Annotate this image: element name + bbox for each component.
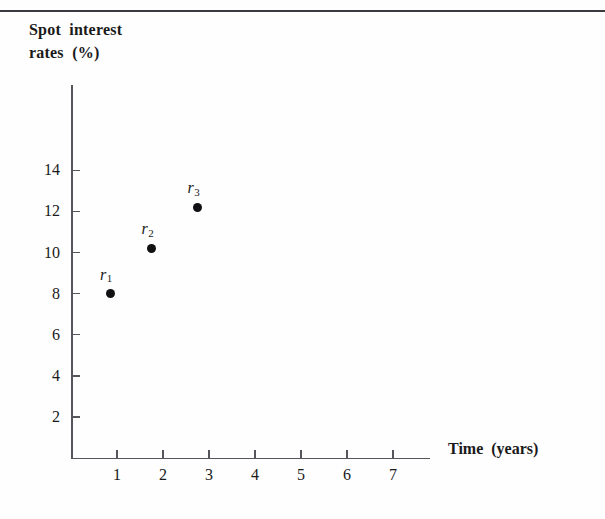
y-tick-label: 2: [34, 409, 60, 425]
y-tick-label-text: 10: [34, 245, 60, 261]
y-tick-label-text: 6: [34, 327, 60, 343]
y-tick-mark: [72, 170, 80, 172]
x-tick-label: 3: [197, 466, 221, 484]
y-tick-label: 14: [34, 162, 60, 178]
y-tick-label: 6: [34, 327, 60, 343]
x-axis-title: Time (years): [448, 440, 538, 458]
y-tick-mark: [72, 334, 80, 336]
y-tick-label-text: 8: [34, 286, 60, 302]
data-point-label: r2: [142, 221, 154, 241]
y-tick-mark: [72, 252, 80, 254]
scatter-plot: 2468101214 1234567 r1r2r3 Time (years): [0, 0, 605, 519]
y-tick-label-text: 2: [34, 409, 60, 425]
x-axis-line: [71, 458, 430, 460]
y-tick-mark: [72, 416, 80, 418]
x-tick-mark: [254, 450, 256, 458]
x-tick-mark: [208, 450, 210, 458]
x-tick-label: 6: [335, 466, 359, 484]
x-tick-label: 4: [243, 466, 267, 484]
y-tick-label-text: 4: [34, 368, 60, 384]
y-tick-mark: [72, 293, 80, 295]
y-tick-mark: [72, 211, 80, 213]
figure-container: Spot interest rates (%) 2468101214 12345…: [0, 0, 605, 519]
y-tick-label-text: 14: [34, 162, 60, 178]
x-tick-mark: [346, 450, 348, 458]
data-point-marker: [193, 203, 202, 212]
y-tick-label: 4: [34, 368, 60, 384]
data-point-label: r1: [100, 267, 112, 287]
x-tick-label: 1: [105, 466, 129, 484]
y-tick-label: 8: [34, 286, 60, 302]
data-point-marker: [147, 244, 156, 253]
y-axis-line: [71, 85, 73, 459]
x-tick-mark: [162, 450, 164, 458]
x-tick-label: 2: [151, 466, 175, 484]
x-tick-label: 7: [381, 466, 405, 484]
x-tick-mark: [392, 450, 394, 458]
x-tick-mark: [300, 450, 302, 458]
data-point-label: r3: [188, 180, 200, 200]
x-tick-label: 5: [289, 466, 313, 484]
y-tick-label: 10: [34, 245, 60, 261]
y-tick-label: 12: [34, 203, 60, 219]
x-tick-mark: [116, 450, 118, 458]
y-tick-mark: [72, 375, 80, 377]
data-point-marker: [106, 289, 115, 298]
y-tick-label-text: 12: [34, 203, 60, 219]
